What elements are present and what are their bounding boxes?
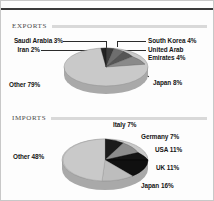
imports-label-other: Other 48%	[13, 153, 73, 161]
exports-label-south-korea: South Korea 4%	[148, 37, 214, 45]
exports-pie-svg	[61, 41, 151, 97]
exports-label-iran: Iran 2%	[1, 46, 40, 54]
imports-pie-svg	[59, 131, 151, 193]
exports-pie-chart	[61, 41, 151, 97]
imports-label-germany: Germany 7%	[141, 133, 211, 141]
exports-chart-area: Saudi Arabia 3% Iran 2% Other 79% South …	[1, 29, 214, 107]
top-divider-rule	[1, 8, 214, 10]
imports-pie-chart	[59, 131, 151, 193]
imports-label-japan: Japan 16%	[141, 182, 207, 190]
exports-label-uae-line2: Emirates 4%	[148, 54, 214, 62]
imports-label-uk: UK 11%	[156, 164, 212, 172]
imports-label-italy: Italy 7%	[113, 121, 173, 129]
exports-label-other: Other 79%	[9, 81, 69, 89]
chart-page: EXPORTS	[0, 0, 214, 201]
exports-label-uae-line1: United Arab	[148, 46, 214, 54]
imports-header-rule	[51, 117, 207, 120]
imports-chart-area: Italy 7% Germany 7% USA 11% UK 11% Japan…	[1, 121, 214, 201]
exports-label-japan: Japan 8%	[153, 79, 213, 87]
exports-label-saudi-arabia: Saudi Arabia 3%	[1, 37, 63, 45]
exports-header-rule	[52, 25, 207, 28]
imports-label-usa: USA 11%	[155, 146, 211, 154]
